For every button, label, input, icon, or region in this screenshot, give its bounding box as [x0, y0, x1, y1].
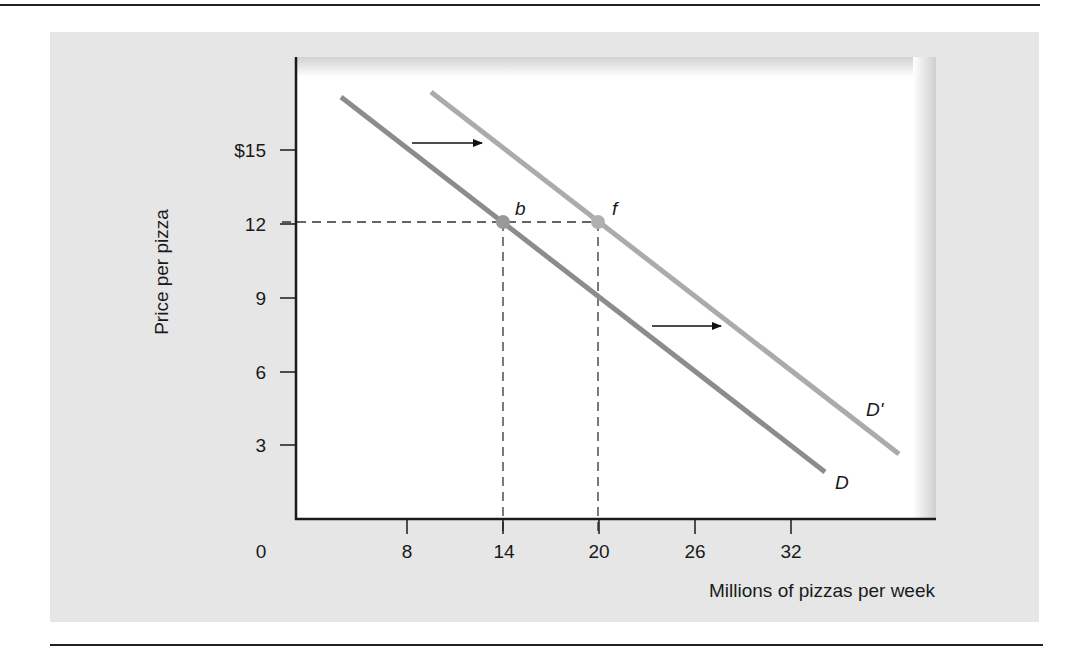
curve-d-prime-label: D' [866, 399, 885, 420]
plot-area [296, 57, 936, 519]
x-tick-label-14: 14 [493, 541, 515, 562]
point-b-label: b [515, 198, 526, 219]
y-tick-label-9: 9 [255, 288, 266, 309]
point-f [591, 215, 605, 229]
x-tick-label-8: 8 [402, 541, 413, 562]
demand-shift-chart: b f D D' $15 12 9 6 3 0 8 14 20 26 32 Mi [0, 0, 1090, 656]
point-b [496, 215, 510, 229]
x-axis-title: Millions of pizzas per week [709, 580, 935, 601]
y-tick-label-12: 12 [245, 214, 266, 235]
origin-label: 0 [256, 541, 267, 562]
y-tick-label-3: 3 [255, 435, 266, 456]
x-tick-label-32: 32 [780, 541, 801, 562]
x-tick-label-26: 26 [684, 541, 705, 562]
y-tick-label-15: $15 [234, 140, 266, 161]
x-tick-label-20: 20 [588, 541, 609, 562]
bottom-rule [50, 644, 1043, 646]
curve-d-label: D [835, 472, 849, 493]
y-axis-title: Price per pizza [151, 209, 172, 335]
y-tick-label-6: 6 [255, 362, 266, 383]
